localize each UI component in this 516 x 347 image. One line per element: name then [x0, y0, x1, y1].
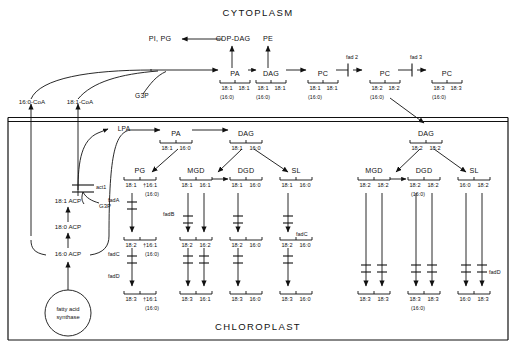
node-pi-pg: PI, PG: [149, 35, 171, 42]
enzyme-fadD-sl: fadD: [489, 270, 501, 275]
enzyme-fad2: fad 2: [346, 55, 358, 60]
node-16-0-acp: 16:0 ACP: [55, 251, 82, 257]
species-sn2: †16:1: [143, 243, 157, 249]
species-sn1: 18:3: [433, 86, 444, 92]
species-sn2: 16:0: [299, 243, 310, 249]
node-dgd-prokaryotic: DGD: [238, 167, 255, 174]
node-g3p-chloroplast: G3P: [99, 203, 111, 209]
species-sn2: 16:1: [199, 297, 210, 303]
species-sn2: 18:2: [429, 146, 440, 152]
species-alt: (16:0): [432, 95, 446, 100]
node-dag-cytoplasm: DAG: [263, 70, 279, 77]
node-pa-chloroplast: PA: [171, 130, 180, 137]
species-sn2: 18:3: [377, 297, 388, 303]
species-sn2: 16:0: [249, 146, 260, 152]
species-sn1: 18:2: [409, 183, 420, 189]
node-pe: PE: [263, 35, 273, 42]
species-sn1: 18:1: [281, 183, 292, 189]
compartment-label-cytoplasm: CYTOPLASM: [222, 8, 293, 18]
enzyme-fadC-sl: fadC: [296, 232, 308, 237]
species-sn2: 18:3: [450, 86, 461, 92]
species-sn1: 18:1: [221, 86, 232, 92]
species-sn1: 18:3: [125, 297, 136, 303]
node-pg: PG: [135, 167, 146, 174]
species-sn2: 18:2: [377, 183, 388, 189]
species-sn2: 16:0: [179, 146, 190, 152]
species-alt: (16:0): [370, 95, 384, 100]
species-sn1: 18:1: [231, 146, 242, 152]
node-lpa: LPA: [118, 126, 131, 133]
species-alt: (16:0): [145, 192, 159, 197]
species-alt: (16:0): [256, 95, 270, 100]
species-sn1: 16:0: [459, 297, 470, 303]
species-alt: (16:0): [411, 306, 425, 311]
species-sn2: 16:1: [199, 183, 210, 189]
node-18-0-acp: 18:0 ACP: [55, 224, 82, 230]
species-sn1: 18:3: [231, 297, 242, 303]
species-alt: (16:0): [220, 95, 234, 100]
compartment-label-chloroplast: CHLOROPLAST: [215, 322, 301, 332]
species-sn2: 18:2: [477, 183, 488, 189]
species-sn1: 18:1: [161, 146, 172, 152]
node-sl-prokaryotic: SL: [291, 167, 300, 174]
species-sn2: 16:2: [199, 243, 210, 249]
node-18-1-acp: 18:1 ACP: [55, 198, 82, 204]
species-sn1: 18:2: [281, 243, 292, 249]
species-sn2: 16:0: [249, 243, 260, 249]
species-sn2: 18:2: [388, 86, 399, 92]
node-18-1-coa: 18:1-CoA: [67, 99, 94, 105]
enzyme-act1: act1: [96, 185, 106, 190]
pathway-artwork: [0, 0, 516, 347]
species-alt: (16:0): [308, 95, 322, 100]
enzyme-fad3: fad 3: [410, 55, 422, 60]
species-sn1: 18:1: [125, 183, 136, 189]
species-sn1: 18:2: [231, 243, 242, 249]
node-g3p-cytoplasm: G3P: [135, 93, 149, 100]
species-sn2: 18:3: [477, 297, 488, 303]
node-16-0-coa: 16:0-CoA: [19, 99, 46, 105]
enzyme-fadB: fadB: [163, 212, 174, 217]
species-sn2: 16:0: [249, 297, 260, 303]
species-sn1: 18:3: [359, 297, 370, 303]
species-sn1: 18:2: [181, 243, 192, 249]
species-sn1: 18:3: [181, 297, 192, 303]
species-sn2: †16:1: [143, 183, 157, 189]
node-dag-eukaryotic: DAG: [418, 130, 434, 137]
species-sn1: 18:1: [257, 86, 268, 92]
species-sn1: 18:2: [125, 243, 136, 249]
species-sn1: 18:3: [281, 297, 292, 303]
enzyme-fadD-pg: fadD: [108, 274, 120, 279]
node-mgd-eukaryotic: MGD: [365, 167, 382, 174]
node-fatty-acid-synthase-line2: synthase: [56, 314, 79, 321]
species-sn2: 18:1: [326, 86, 337, 92]
enzyme-fadC-pg: fadC: [108, 252, 120, 257]
pathway-figure: CYTOPLASM CHLOROPLAST PI, PG CDP-DAG PE …: [0, 0, 516, 347]
node-dgd-eukaryotic: DGD: [416, 167, 433, 174]
species-sn1: 18:1: [231, 183, 242, 189]
node-dag-chloroplast: DAG: [238, 130, 254, 137]
node-pc-18-1: PC: [318, 70, 328, 77]
node-sl-eukaryotic: SL: [469, 167, 478, 174]
species-alt: (16:0): [145, 252, 159, 257]
node-pc-18-2: PC: [380, 70, 390, 77]
species-sn1: 18:2: [359, 183, 370, 189]
node-pa-cytoplasm: PA: [230, 70, 239, 77]
species-sn2: 18:1: [274, 86, 285, 92]
species-alt: (16:0): [411, 192, 425, 197]
species-sn1: 18:3: [409, 297, 420, 303]
species-sn2: 16:0: [299, 297, 310, 303]
species-sn2: 18:3: [427, 297, 438, 303]
species-sn2: 16:0: [299, 183, 310, 189]
species-sn1: 18:1: [181, 183, 192, 189]
species-sn1: 18:2: [411, 146, 422, 152]
species-sn2: 16:0: [249, 183, 260, 189]
species-sn2: 18:1: [238, 86, 249, 92]
node-cdp-dag: CDP-DAG: [216, 35, 251, 42]
species-sn1: 18:2: [371, 86, 382, 92]
node-fatty-acid-synthase-line1: fatty acid: [56, 306, 79, 313]
species-sn1: 18:1: [309, 86, 320, 92]
node-mgd-prokaryotic: MGD: [187, 167, 204, 174]
node-pc-18-3: PC: [442, 70, 452, 77]
enzyme-fadA: fadA: [108, 198, 119, 203]
species-alt: (16:0): [145, 306, 159, 311]
